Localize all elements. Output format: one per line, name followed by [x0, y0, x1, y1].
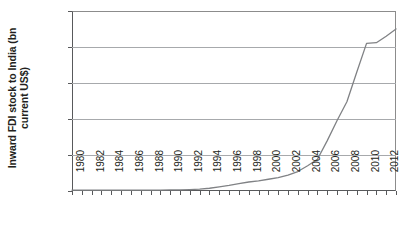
x-tick-mark	[92, 191, 93, 195]
x-tick-label: 2004	[312, 150, 322, 196]
x-tick-mark	[209, 191, 210, 195]
x-tick-mark	[327, 191, 328, 195]
y-axis-title-text: Inward FDI stock to India (bn current US…	[6, 9, 31, 187]
x-tick-mark	[288, 191, 289, 195]
x-tick-label: 1990	[174, 150, 184, 196]
x-tick-label: 2012	[390, 150, 400, 196]
x-tick-label: 2008	[351, 150, 361, 196]
x-tick-mark	[151, 191, 152, 195]
x-tick-label: 2006	[331, 150, 341, 196]
x-tick-label: 1992	[194, 150, 204, 196]
x-tick-label: 1982	[96, 150, 106, 196]
x-tick-mark	[190, 191, 191, 195]
x-tick-mark	[72, 191, 73, 195]
x-tick-mark	[249, 191, 250, 195]
x-tick-label: 2010	[371, 150, 381, 196]
x-tick-mark	[229, 191, 230, 195]
x-tick-label: 1986	[135, 150, 145, 196]
x-tick-mark	[111, 191, 112, 195]
x-tick-label: 1988	[155, 150, 165, 196]
y-axis-title: Inward FDI stock to India (bn current US…	[0, 9, 36, 187]
x-tick-label: 2002	[292, 150, 302, 196]
x-tick-mark	[170, 191, 171, 195]
x-tick-label: 1994	[213, 150, 223, 196]
x-tick-mark	[131, 191, 132, 195]
x-tick-mark	[268, 191, 269, 195]
x-tick-label: 1980	[76, 150, 86, 196]
x-tick-label: 1984	[115, 150, 125, 196]
fdi-stock-line-chart: Inward FDI stock to India (bn current US…	[0, 0, 410, 235]
x-tick-mark	[367, 191, 368, 195]
x-tick-label: 1998	[253, 150, 263, 196]
x-tick-label: 1996	[233, 150, 243, 196]
x-tick-mark	[308, 191, 309, 195]
x-tick-mark	[347, 191, 348, 195]
x-tick-mark	[386, 191, 387, 195]
x-tick-label: 2000	[272, 150, 282, 196]
